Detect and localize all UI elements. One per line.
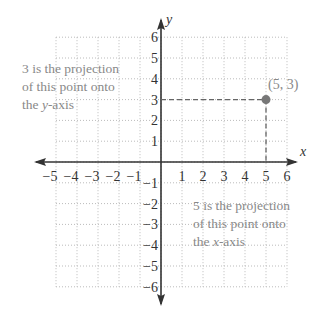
x-tick-label: 6 xyxy=(284,169,291,184)
point-marker xyxy=(262,95,271,104)
x-tick-label: 4 xyxy=(242,169,249,184)
x-tick-label: 2 xyxy=(200,169,207,184)
y-tick-label: 6 xyxy=(151,30,158,45)
y-projection-note: the y-axis xyxy=(22,97,74,112)
y-projection-note: of this point onto xyxy=(22,79,115,94)
x-tick-label: −5 xyxy=(43,169,58,184)
x-tick-label: −2 xyxy=(106,169,121,184)
y-projection-note: 3 is the projection xyxy=(22,61,119,76)
x-tick-label: −4 xyxy=(64,169,79,184)
x-tick-label: 3 xyxy=(221,169,228,184)
y-tick-label: 3 xyxy=(151,93,158,108)
x-projection-note: 5 is the projection xyxy=(193,198,290,213)
y-tick-label: −2 xyxy=(143,197,158,212)
x-tick-label: 5 xyxy=(263,169,270,184)
point-label: (5, 3) xyxy=(268,77,299,93)
projection-lines xyxy=(161,100,266,162)
y-tick-label: 1 xyxy=(151,134,158,149)
y-tick-label: −5 xyxy=(143,259,158,274)
point: (5, 3) xyxy=(262,77,299,105)
x-tick-label: −1 xyxy=(127,169,142,184)
x-tick-label: −3 xyxy=(85,169,100,184)
x-projection-note: of this point onto xyxy=(193,216,286,231)
y-tick-label: −6 xyxy=(143,280,158,295)
y-tick-label: 5 xyxy=(151,51,158,66)
x-tick-label: 1 xyxy=(179,169,186,184)
y-tick-label: −4 xyxy=(143,238,158,253)
y-tick-label: 2 xyxy=(151,113,158,128)
x-projection-note: the x-axis xyxy=(193,234,245,249)
x-axis-label: x xyxy=(299,144,307,159)
coordinate-plane: yx −5−4−3−2−1123456654321−1−2−3−4−5−6 (5… xyxy=(0,0,324,314)
y-axis-label: y xyxy=(164,12,173,27)
y-tick-label: 4 xyxy=(151,72,158,87)
y-tick-label: −3 xyxy=(143,217,158,232)
y-tick-label: −1 xyxy=(143,176,158,191)
